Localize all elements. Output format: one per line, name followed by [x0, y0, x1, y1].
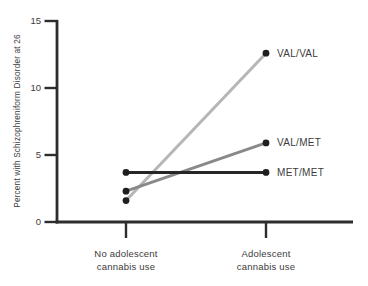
series-line-val-met: [126, 143, 266, 191]
series-line-val-val: [126, 53, 266, 200]
x-category-label: cannabis use: [97, 261, 155, 272]
x-category-label: No adolescent: [94, 248, 157, 259]
y-axis-title: Percent with Schizophreniform Disorder a…: [13, 34, 22, 208]
chart-plot: 051015No adolescentcannabis useAdolescen…: [30, 15, 353, 271]
x-category-label: Adolescent: [241, 248, 290, 259]
series-label-met-met: MET/MET: [277, 167, 324, 178]
data-point-marker-met-met: [123, 169, 130, 176]
series-label-val-met: VAL/MET: [277, 137, 321, 148]
chart-svg: Percent with Schizophreniform Disorder a…: [0, 0, 368, 286]
data-point-marker-val-val: [263, 50, 270, 57]
y-axis-tick-label: 5: [36, 149, 41, 160]
y-axis-tick-label: 10: [30, 82, 41, 93]
x-category-label: cannabis use: [237, 261, 295, 272]
data-point-marker-val-met: [123, 188, 130, 195]
y-axis-tick-label: 15: [30, 15, 41, 26]
data-point-marker-val-met: [263, 140, 270, 147]
series-label-val-val: VAL/VAL: [277, 48, 318, 59]
data-point-marker-val-val: [123, 197, 130, 204]
y-axis-tick-label: 0: [36, 216, 41, 227]
figure-container: Percent with Schizophreniform Disorder a…: [0, 0, 368, 286]
data-point-marker-met-met: [263, 169, 270, 176]
